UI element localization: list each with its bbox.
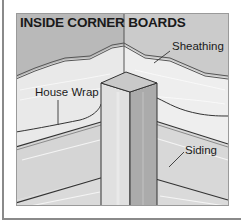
siding-label: Siding (185, 144, 217, 156)
figure-title: INSIDE CORNER BOARDS (20, 15, 186, 30)
corner-board-front-face (101, 83, 130, 206)
sheathing-label: Sheathing (172, 40, 224, 52)
figure-frame: INSIDE CORNER BOARDS Sheathing House Wra… (0, 0, 241, 224)
frame-left-border (2, 0, 4, 220)
house-wrap-label: House Wrap (35, 86, 99, 98)
frame-bottom-border (2, 218, 241, 220)
